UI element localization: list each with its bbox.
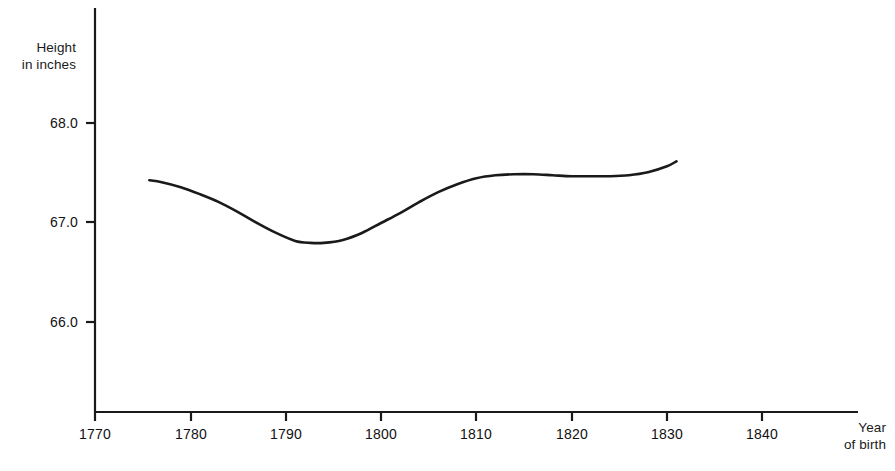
y-tick-label-68: 68.0 bbox=[28, 115, 78, 131]
y-axis-title: Height in inches bbox=[0, 40, 76, 73]
x-tick-label-1770: 1770 bbox=[65, 426, 125, 442]
x-tick-label-1820: 1820 bbox=[542, 426, 602, 442]
y-axis-title-line1: Height bbox=[0, 40, 76, 57]
y-axis-ticks bbox=[86, 123, 95, 322]
x-tick-label-1830: 1830 bbox=[637, 426, 697, 442]
x-tick-label-1810: 1810 bbox=[446, 426, 506, 442]
y-axis-title-line2: in inches bbox=[0, 57, 76, 74]
y-tick-label-66: 66.0 bbox=[28, 314, 78, 330]
x-axis-title-line2: of birth bbox=[778, 437, 886, 454]
x-tick-label-1840: 1840 bbox=[732, 426, 792, 442]
x-axis-ticks bbox=[95, 412, 762, 421]
x-tick-label-1800: 1800 bbox=[351, 426, 411, 442]
y-tick-label-67: 67.0 bbox=[28, 214, 78, 230]
chart-figure: Height in inches Year of birth 68.0 67.0… bbox=[0, 0, 895, 471]
height-trend-line bbox=[149, 161, 676, 243]
x-axis-title: Year of birth bbox=[778, 420, 886, 453]
line-chart-canvas bbox=[0, 0, 895, 471]
x-tick-label-1780: 1780 bbox=[161, 426, 221, 442]
x-axis-title-line1: Year bbox=[778, 420, 886, 437]
x-tick-label-1790: 1790 bbox=[256, 426, 316, 442]
